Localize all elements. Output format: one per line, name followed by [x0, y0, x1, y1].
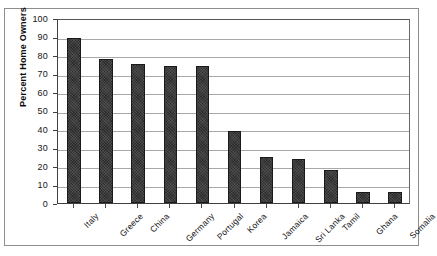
- y-tick-label: 40: [38, 126, 48, 135]
- x-tick-label: Portugal: [215, 211, 246, 242]
- y-axis: Percent Home Owners 01020304050607080901…: [0, 0, 57, 256]
- bar: [388, 192, 401, 203]
- bar: [292, 159, 305, 203]
- y-axis-title: Percent Home Owners: [18, 0, 28, 127]
- x-tick-mark: [330, 204, 331, 208]
- x-tick-mark: [298, 204, 299, 208]
- y-tick-label: 60: [38, 89, 48, 98]
- bar: [324, 170, 337, 203]
- y-tick-label: 90: [38, 33, 48, 42]
- x-tick-mark: [105, 204, 106, 208]
- bar: [164, 66, 177, 203]
- x-tick-label: Jamaica: [279, 211, 309, 241]
- x-tick-mark: [201, 204, 202, 208]
- bar: [260, 157, 273, 203]
- y-tick-label: 80: [38, 52, 48, 61]
- y-tick-label: 0: [43, 200, 48, 209]
- x-tick-mark: [266, 204, 267, 208]
- y-tick-label: 30: [38, 144, 48, 153]
- y-tick-label: 70: [38, 70, 48, 79]
- bar: [228, 131, 241, 203]
- bar: [356, 192, 369, 203]
- x-tick-mark: [234, 204, 235, 208]
- x-tick-label: Ghana: [374, 211, 400, 237]
- bar: [99, 59, 112, 203]
- bar: [131, 64, 144, 203]
- y-tick-label: 50: [38, 107, 48, 116]
- x-tick-mark: [169, 204, 170, 208]
- y-tick-label: 100: [32, 15, 48, 24]
- y-tick-label: 10: [38, 181, 48, 190]
- x-tick-mark: [394, 204, 395, 208]
- x-axis: ItalyGreeceChinaGermanyPortugalKoreaJama…: [57, 204, 410, 256]
- bars-layer: [58, 20, 409, 203]
- plot-area: [57, 19, 410, 204]
- x-tick-label: Greece: [118, 211, 146, 239]
- bar: [67, 38, 80, 203]
- x-tick-label: Italy: [82, 211, 101, 230]
- x-tick-label: China: [148, 211, 171, 234]
- x-tick-label: Germany: [184, 211, 217, 244]
- x-tick-mark: [73, 204, 74, 208]
- bar: [196, 66, 209, 203]
- y-tick-label: 20: [38, 163, 48, 172]
- x-tick-mark: [362, 204, 363, 208]
- x-tick-label: Korea: [244, 211, 268, 235]
- x-tick-mark: [137, 204, 138, 208]
